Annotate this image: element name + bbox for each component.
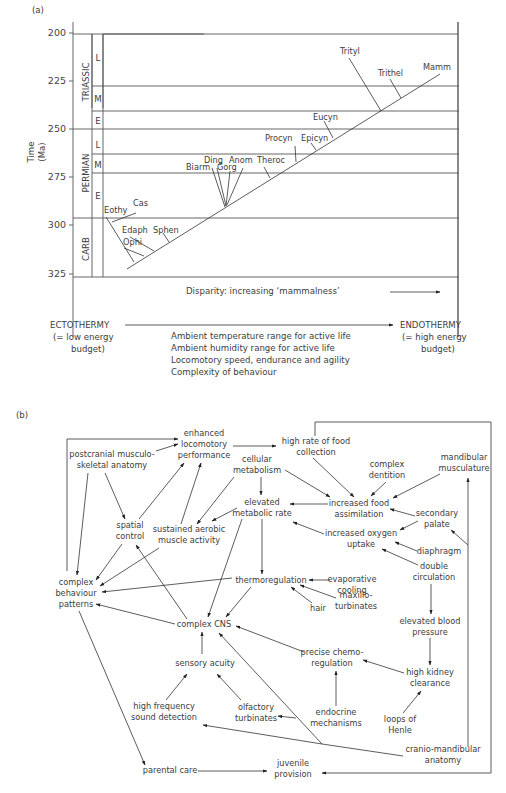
ectothermy-sub2: budget): [71, 344, 105, 354]
node-endocrine-1: endocrine: [316, 707, 357, 717]
epoch-tri-e: E: [95, 116, 100, 126]
ectothermy-label: ECTOTHERMY: [50, 320, 110, 330]
node-juvenile-2: provision: [274, 769, 311, 779]
node-hair: hair: [310, 603, 326, 613]
epoch-perm-e: E: [95, 191, 100, 201]
taxon-eothy: Eothy: [104, 205, 128, 215]
taxon-cas: Cas: [133, 198, 148, 208]
node-kidney-2: clearance: [410, 678, 450, 688]
epoch-tri-l: L: [96, 53, 101, 63]
epoch-tri-m: M: [94, 94, 101, 104]
node-juvenile-1: juvenile: [276, 758, 309, 768]
node-incoxy-2: uptake: [347, 539, 375, 549]
tick-325: 325: [48, 268, 66, 279]
node-maxillo-1: maxillo-: [340, 590, 373, 600]
gradient-item-3: Locomotory speed, endurance and agility: [171, 355, 350, 365]
node-cranio-1: cranio-mandibular: [405, 744, 481, 754]
node-incfood-2: assimilation: [334, 509, 383, 519]
panel-b-label: (b): [16, 410, 28, 420]
node-complexdent-1: complex: [370, 459, 405, 469]
epoch-perm-l: L: [96, 140, 101, 150]
epoch-perm-m: M: [94, 160, 101, 170]
taxon-edaph: Edaph: [122, 225, 148, 235]
node-incfood-1: increased food: [329, 498, 389, 508]
node-highrate-2: collection: [296, 447, 335, 457]
endothermy-sub1: (= high energy: [402, 332, 467, 342]
taxon-theroc: Theroc: [256, 155, 285, 165]
taxon-eucyn: Eucyn: [313, 112, 338, 122]
gradient-item-1: Ambient temperature range for active lif…: [171, 331, 351, 341]
node-complexbeh-2: behaviour: [55, 588, 97, 598]
node-loops-1: loops of: [384, 714, 417, 724]
node-kidney-1: high kidney: [406, 667, 454, 677]
node-highrate-1: high rate of food: [282, 436, 350, 446]
node-secpal-1: secondary: [416, 508, 459, 518]
panel-b: (b) enhanced locomotory performance high…: [16, 410, 491, 779]
node-sensory: sensory acuity: [175, 658, 235, 668]
node-elevblood-1: elevated blood: [400, 616, 461, 626]
node-doublecirc-1: double: [420, 561, 448, 571]
node-chemo-1: precise chemo-: [301, 647, 364, 657]
node-highfreq-2: sound detection: [131, 712, 197, 722]
tick-300: 300: [48, 219, 66, 230]
node-cellular-1: cellular: [242, 454, 273, 464]
taxon-sphen: Sphen: [153, 225, 179, 235]
node-maxillo-2: turbinates: [335, 601, 377, 611]
node-incoxy-1: increased oxygen: [325, 528, 397, 538]
node-enhanced-3: performance: [178, 450, 230, 460]
node-mandmusc-2: musculature: [438, 463, 489, 473]
node-spatial-2: control: [116, 531, 144, 541]
node-complexbeh-3: patterns: [59, 599, 93, 609]
tick-200: 200: [48, 27, 66, 38]
taxon-ophi: Ophi: [123, 237, 142, 247]
panel-a: (a) 200 225 250 275 300 325 Time (Ma): [26, 5, 506, 377]
diagram-nodes: enhanced locomotory performance high rat…: [55, 428, 489, 779]
node-endocrine-2: mechanisms: [310, 718, 362, 728]
node-thermoreg: thermoregulation: [235, 575, 306, 585]
node-diaphragm: diaphragm: [417, 546, 461, 556]
taxon-trithel: Trithel: [377, 68, 403, 78]
node-postcranial-1: postcranial musculo-: [69, 449, 154, 459]
ectothermy-sub1: (= low energy: [53, 332, 114, 342]
node-cellular-2: metabolism: [233, 465, 281, 475]
taxon-procyn: Procyn: [265, 133, 293, 143]
node-cns: complex CNS: [177, 619, 231, 629]
node-doublecirc-2: circulation: [413, 572, 456, 582]
node-postcranial-2: skeletal anatomy: [77, 460, 148, 470]
period-permian: PERMIAN: [81, 154, 91, 193]
taxon-mamm: Mamm: [423, 62, 451, 72]
gradient-item-2: Ambient humidity range for active life: [171, 343, 335, 353]
taxon-trityl: Trityl: [339, 46, 360, 56]
node-chemo-2: regulation: [311, 658, 353, 668]
node-olfactory-1: olfactory: [238, 702, 274, 712]
node-parental: parental care: [143, 765, 197, 775]
node-spatial-1: spatial: [116, 520, 143, 530]
y-ticks: 200 225 250 275 300 325: [48, 27, 73, 279]
y-axis-label-time: Time: [26, 141, 36, 163]
tick-275: 275: [48, 171, 66, 182]
period-carb: CARB: [81, 237, 91, 261]
node-secpal-2: palate: [424, 519, 450, 529]
node-sustained-2: muscle activity: [158, 535, 220, 545]
node-elevmet-1: elevated: [244, 497, 280, 507]
gradient-item-4: Complexity of behaviour: [171, 367, 277, 377]
x-axis-label: Disparity: increasing ‘mammalness’: [186, 286, 340, 296]
panel-a-label: (a): [32, 5, 44, 15]
node-enhanced-2: locomotory: [181, 439, 227, 449]
node-loops-2: Henle: [388, 725, 412, 735]
node-evap-1: evaporative: [328, 574, 377, 584]
node-mandmusc-1: mandibular: [441, 452, 488, 462]
node-complexdent-2: dentition: [369, 470, 406, 480]
node-elevblood-2: pressure: [412, 627, 447, 637]
period-triassic: TRIASSIC: [81, 62, 91, 102]
node-cranio-2: anatomy: [425, 755, 461, 765]
tick-250: 250: [48, 123, 66, 134]
endothermy-label: ENDOTHERMY: [400, 320, 462, 330]
taxon-epicyn: Epicyn: [301, 133, 328, 143]
node-elevmet-2: metabolic rate: [232, 508, 292, 518]
y-axis-label-ma: (Ma): [37, 142, 47, 161]
tick-225: 225: [48, 75, 66, 86]
node-olfactory-2: turbinates: [235, 713, 277, 723]
taxon-anom: Anom: [229, 155, 253, 165]
figure: (a) 200 225 250 275 300 325 Time (Ma): [0, 0, 506, 793]
